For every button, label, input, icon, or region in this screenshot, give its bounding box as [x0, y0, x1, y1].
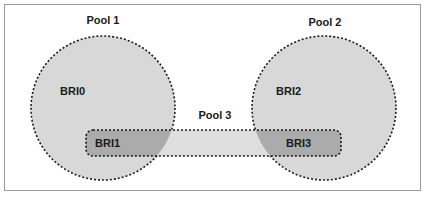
- pool-diagram: Pool 1 Pool 2 Pool 3 BRI0 BRI1 BRI2 BRI3: [0, 0, 427, 198]
- pool-2-label: Pool 2: [308, 16, 341, 28]
- pool-1-circle: [31, 36, 175, 180]
- bri3-label: BRI3: [286, 137, 311, 149]
- pool-1-label: Pool 1: [86, 14, 119, 26]
- pool-2-circle: [252, 36, 396, 180]
- pool-3-label: Pool 3: [198, 109, 231, 121]
- bri1-label: BRI1: [95, 137, 120, 149]
- bri2-label: BRI2: [276, 85, 301, 97]
- bri0-label: BRI0: [60, 85, 85, 97]
